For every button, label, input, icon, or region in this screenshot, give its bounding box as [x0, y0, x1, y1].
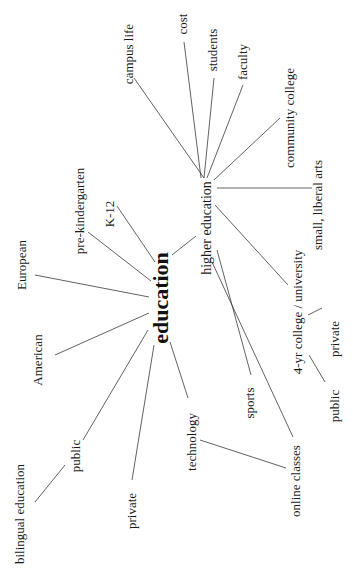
edge-higher-faculty [207, 85, 243, 178]
node-public[interactable]: public [68, 440, 83, 473]
edge-education-technology [170, 342, 188, 398]
node-community-college[interactable]: community college [282, 68, 297, 168]
node-students[interactable]: students [205, 29, 220, 72]
edge-4yr-public [309, 355, 325, 382]
node-private[interactable]: private [124, 493, 139, 529]
node-4yr-public[interactable]: public [327, 390, 342, 423]
node-4yr-private[interactable]: private [327, 321, 342, 357]
node-european[interactable]: European [14, 240, 29, 290]
node-technology[interactable]: technology [184, 413, 199, 471]
edge-public-bilingual [35, 465, 65, 502]
node-american[interactable]: American [30, 334, 45, 386]
edge-education-european [35, 275, 149, 297]
edge-education-private [132, 345, 154, 480]
edge-higher-cost [184, 42, 201, 178]
nodes: education higher education campus life c… [12, 13, 342, 564]
node-pre-kindergarten[interactable]: pre-kindergarten [72, 167, 87, 254]
edge-4yr-private [308, 308, 322, 315]
edge-education-public [83, 330, 148, 440]
node-k12[interactable]: K-12 [102, 201, 117, 228]
node-sports[interactable]: sports [242, 387, 257, 418]
node-campus-life[interactable]: campus life [121, 24, 136, 85]
node-education[interactable]: education [148, 252, 173, 344]
edge-education-american [55, 313, 149, 355]
edge-education-pre-k [88, 232, 151, 281]
edge-education-higher [172, 236, 196, 255]
edge-technology-online [200, 440, 286, 468]
node-cost[interactable]: cost [175, 13, 190, 34]
edge-higher-community-college [214, 118, 280, 180]
node-higher-education[interactable]: higher education [199, 181, 214, 275]
edge-higher-4yr [215, 205, 288, 285]
node-faculty[interactable]: faculty [235, 43, 250, 80]
node-bilingual-education[interactable]: bilingual education [12, 464, 27, 565]
node-online-classes[interactable]: online classes [288, 445, 303, 517]
node-4yr-college-university[interactable]: 4-yr college / university [290, 249, 305, 374]
edge-higher-campus-life [134, 78, 204, 178]
node-small-liberal-arts[interactable]: small, liberal arts [310, 160, 325, 250]
mind-map: education higher education campus life c… [0, 0, 353, 583]
edge-higher-sports [217, 250, 251, 375]
